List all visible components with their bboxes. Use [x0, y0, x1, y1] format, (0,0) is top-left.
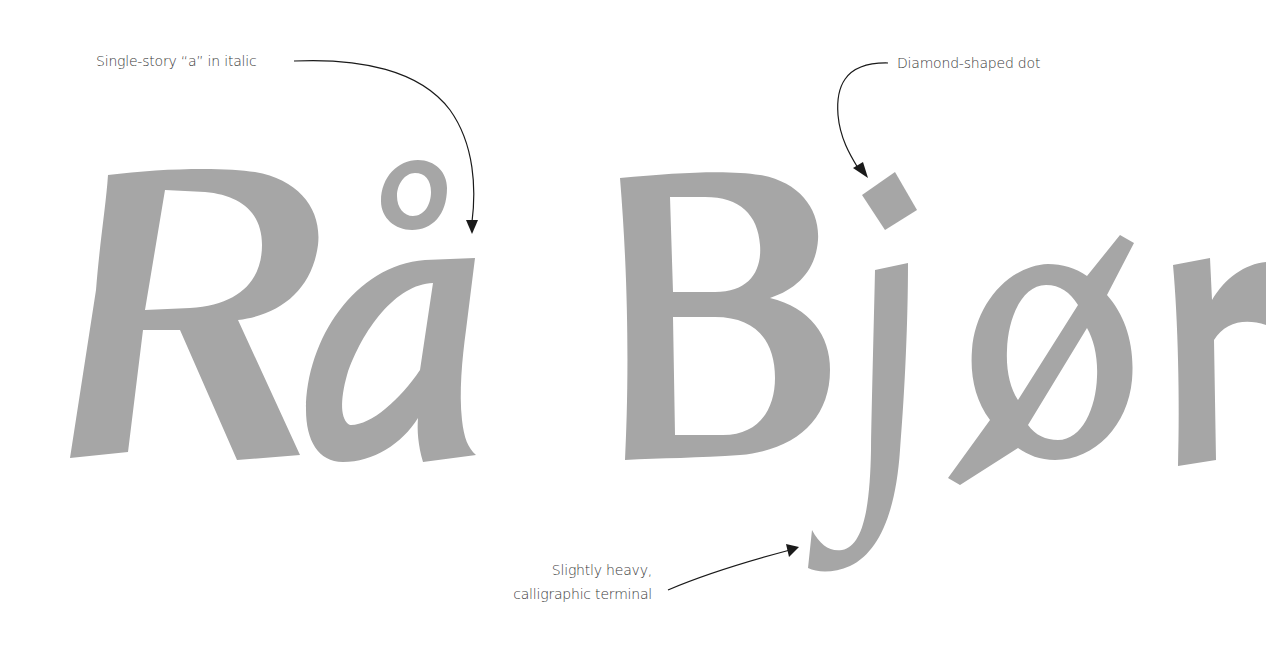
type-specimen-diagram: Single-story “a” in italic Diamond-shape… — [0, 0, 1266, 648]
glyph-ring — [381, 160, 447, 230]
arrow-diamond-dot — [838, 63, 888, 168]
annotation-diamond-dot: Diamond-shaped dot — [897, 51, 1040, 75]
arrow-terminal — [668, 550, 790, 590]
arrowhead-a — [466, 220, 478, 234]
annotation-terminal: Slightly heavy, calligraphic terminal — [470, 558, 652, 606]
specimen-glyphs — [0, 0, 1266, 648]
glyph-R — [70, 169, 318, 460]
annotation-terminal-line-2: calligraphic terminal — [470, 582, 652, 606]
glyph-j — [808, 263, 908, 572]
annotation-single-story-a: Single-story “a” in italic — [96, 49, 256, 73]
glyph-r — [1173, 258, 1266, 466]
annotation-terminal-line-1: Slightly heavy, — [470, 558, 652, 582]
glyph-j-dot — [862, 172, 917, 230]
arrowhead-terminal — [786, 544, 799, 557]
glyph-o-slash — [948, 235, 1134, 485]
glyph-B — [620, 172, 830, 460]
glyph-a — [306, 258, 476, 462]
